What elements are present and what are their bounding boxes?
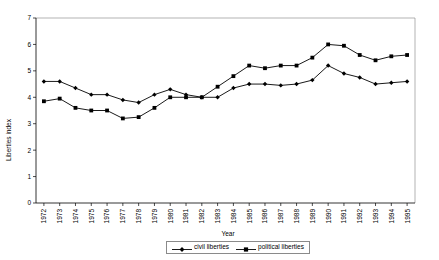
data-series-group xyxy=(42,43,410,121)
diamond-marker-icon xyxy=(172,239,192,257)
data-point-marker xyxy=(326,43,330,47)
x-tick-label: 1982 xyxy=(198,209,205,224)
data-point-marker xyxy=(73,86,77,90)
x-tick-label: 1986 xyxy=(261,209,268,224)
data-point-marker xyxy=(89,92,93,96)
data-point-marker xyxy=(342,44,346,48)
y-tick-label: 5 xyxy=(27,67,31,74)
data-point-marker xyxy=(342,71,346,75)
data-point-marker xyxy=(74,106,78,110)
y-axis-title: Liberties index xyxy=(5,118,12,161)
x-tick-label: 1983 xyxy=(214,209,221,224)
data-point-marker xyxy=(294,82,298,86)
y-tick-label: 4 xyxy=(27,94,31,101)
x-tick-label: 1988 xyxy=(293,209,300,224)
x-tick-label: 1980 xyxy=(167,209,174,224)
series-political-liberties xyxy=(42,43,409,121)
chart-figure: 01234567 1972197319741975197619771978197… xyxy=(0,0,439,260)
line-chart-plot: 01234567 1972197319741975197619771978197… xyxy=(0,0,439,260)
data-point-marker xyxy=(42,79,46,83)
data-point-marker xyxy=(247,64,251,68)
data-point-marker xyxy=(42,99,46,103)
legend-label-civil-liberties: civil liberties xyxy=(194,244,229,251)
x-tick-label: 1985 xyxy=(246,209,253,224)
data-point-marker xyxy=(263,82,267,86)
x-tick-label: 1975 xyxy=(88,209,95,224)
x-axis-ticks: 1972197319741975197619771978197919801981… xyxy=(40,203,410,223)
data-point-marker xyxy=(216,85,220,89)
data-point-marker xyxy=(215,95,219,99)
data-point-marker xyxy=(310,56,314,60)
data-point-marker xyxy=(263,66,267,70)
data-point-marker xyxy=(295,64,299,68)
data-point-marker xyxy=(89,109,93,113)
data-point-marker xyxy=(247,82,251,86)
data-point-marker xyxy=(184,95,188,99)
data-point-marker xyxy=(232,74,236,78)
data-point-marker xyxy=(358,53,362,57)
data-point-marker xyxy=(279,64,283,68)
x-tick-label: 1987 xyxy=(277,209,284,224)
y-axis-ticks: 01234567 xyxy=(27,14,36,206)
x-tick-label: 1973 xyxy=(56,209,63,224)
data-point-marker xyxy=(231,86,235,90)
data-point-marker xyxy=(121,98,125,102)
data-point-marker xyxy=(121,117,125,121)
series-civil-liberties xyxy=(42,63,410,104)
x-tick-label: 1972 xyxy=(40,209,47,224)
legend-item-political-liberties: political liberties xyxy=(236,239,304,257)
x-tick-label: 1979 xyxy=(151,209,158,224)
x-tick-label: 1991 xyxy=(340,209,347,224)
y-tick-label: 7 xyxy=(27,14,31,21)
square-marker-icon xyxy=(236,239,256,257)
data-point-marker xyxy=(389,81,393,85)
y-tick-label: 0 xyxy=(27,199,31,206)
data-point-marker xyxy=(200,95,204,99)
series-line xyxy=(44,66,407,103)
data-point-marker xyxy=(152,92,156,96)
data-point-marker xyxy=(168,87,172,91)
data-point-marker xyxy=(405,79,409,83)
x-tick-label: 1984 xyxy=(230,209,237,224)
data-point-marker xyxy=(105,109,109,113)
x-tick-label: 1978 xyxy=(135,209,142,224)
data-point-marker xyxy=(105,92,109,96)
x-tick-label: 1994 xyxy=(388,209,395,224)
data-point-marker xyxy=(279,83,283,87)
data-point-marker xyxy=(168,95,172,99)
series-line xyxy=(44,44,407,118)
data-point-marker xyxy=(389,54,393,58)
x-tick-label: 1977 xyxy=(119,209,126,224)
y-tick-label: 2 xyxy=(27,147,31,154)
x-tick-label: 1989 xyxy=(309,209,316,224)
data-point-marker xyxy=(137,115,141,119)
x-tick-label: 1992 xyxy=(356,209,363,224)
legend-label-political-liberties: political liberties xyxy=(258,244,304,251)
data-point-marker xyxy=(153,106,157,110)
data-point-marker xyxy=(405,53,409,57)
y-tick-label: 6 xyxy=(27,41,31,48)
data-point-marker xyxy=(373,82,377,86)
chart-legend: civil liberties political liberties xyxy=(166,241,310,254)
data-point-marker xyxy=(57,79,61,83)
legend-item-civil-liberties: civil liberties xyxy=(172,239,229,257)
data-point-marker xyxy=(374,58,378,62)
x-axis-title: Year xyxy=(221,230,235,237)
y-tick-label: 3 xyxy=(27,120,31,127)
x-tick-label: 1990 xyxy=(325,209,332,224)
y-tick-label: 1 xyxy=(27,173,31,180)
x-tick-label: 1976 xyxy=(103,209,110,224)
data-point-marker xyxy=(136,100,140,104)
x-tick-label: 1974 xyxy=(72,209,79,224)
data-point-marker xyxy=(58,97,62,101)
x-tick-label: 1993 xyxy=(372,209,379,224)
x-tick-label: 1981 xyxy=(182,209,189,224)
data-point-marker xyxy=(358,75,362,79)
x-tick-label: 1995 xyxy=(404,209,411,224)
